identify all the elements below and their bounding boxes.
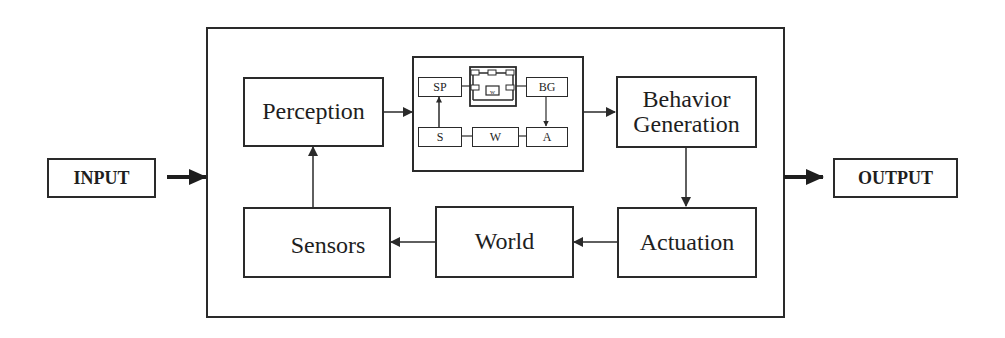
behavior-generation-label: Behavior Generation <box>620 87 753 137</box>
sensors-block: Sensors <box>243 207 391 278</box>
mini-sp-label: SP <box>433 80 446 95</box>
mini-bg-label: BG <box>539 80 556 95</box>
mini-s-label: S <box>437 130 444 145</box>
output-node: OUTPUT <box>833 158 958 198</box>
perception-label: Perception <box>262 99 365 124</box>
mini-w-block: W <box>472 127 519 147</box>
output-label: OUTPUT <box>858 168 933 189</box>
actuation-label: Actuation <box>640 230 735 255</box>
mini-s-block: S <box>418 127 462 147</box>
behavior-generation-block: Behavior Generation <box>616 76 757 148</box>
sensors-label: Sensors <box>291 233 366 258</box>
mini-w-label: W <box>490 130 501 145</box>
mini-a-block: A <box>526 127 568 147</box>
nested-network-icon: w <box>470 67 516 106</box>
actuation-block: Actuation <box>617 207 757 278</box>
mini-sp-block: SP <box>418 77 462 97</box>
mini-bg-block: BG <box>526 77 568 97</box>
perception-block: Perception <box>243 77 384 147</box>
input-node: INPUT <box>47 158 156 198</box>
mini-a-label: A <box>543 130 552 145</box>
world-label: World <box>475 229 534 254</box>
world-block: World <box>435 206 574 278</box>
input-label: INPUT <box>73 168 129 189</box>
